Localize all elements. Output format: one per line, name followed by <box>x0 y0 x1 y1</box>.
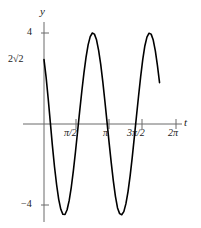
y-axis-label: y <box>40 6 45 17</box>
sinusoid-plot-figure: y t 4 2√2 −4 π/2 π 3π/2 2π <box>0 0 201 228</box>
x-tick-label-3pi-over-2: 3π/2 <box>127 128 145 138</box>
y-tick-label-minus-4: −4 <box>21 199 32 209</box>
x-tick-label-2pi: 2π <box>168 128 178 138</box>
x-tick-label-pi: π <box>103 128 108 138</box>
y-tick-label-4: 4 <box>27 27 32 37</box>
x-axis-label: t <box>184 117 187 128</box>
x-tick-label-pi-over-2: π/2 <box>64 128 77 138</box>
y-intercept-label: 2√2 <box>8 54 24 64</box>
